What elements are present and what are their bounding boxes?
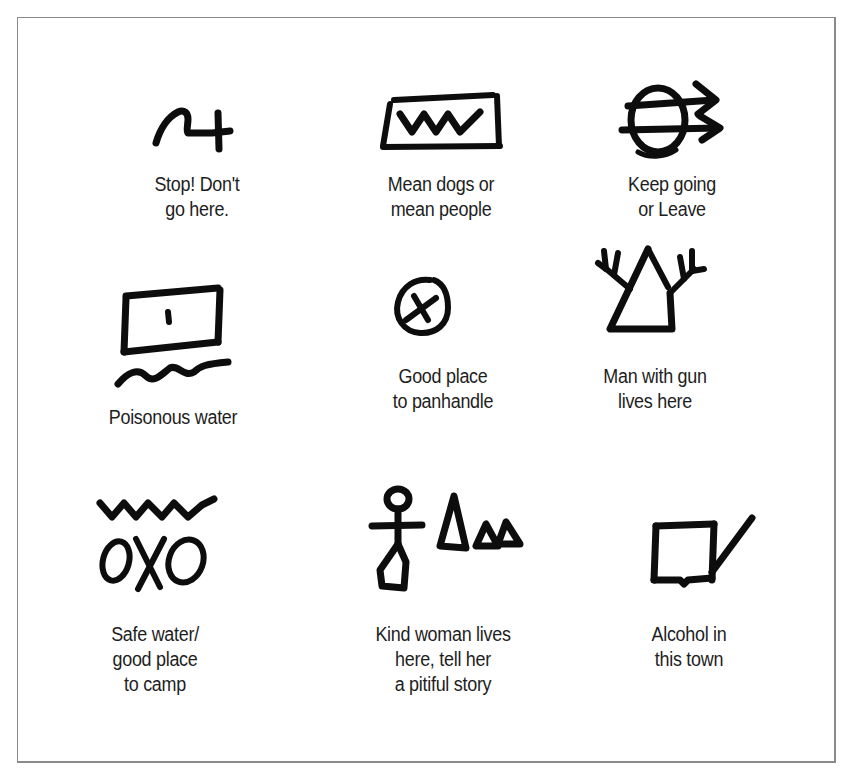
caption-line: or Leave xyxy=(628,197,716,222)
caption-line: a pitiful story xyxy=(375,672,510,697)
caption-line: Poisonous water xyxy=(109,405,237,430)
symbol-caption: Safe water/ good place to camp xyxy=(111,622,199,697)
caption-line: Man with gun xyxy=(603,364,706,389)
circle-with-double-arrows-icon xyxy=(618,78,733,160)
caption-line: mean people xyxy=(388,197,494,222)
box-with-check-stroke-icon xyxy=(650,510,765,590)
caption-line: good place xyxy=(111,647,199,672)
caption-line: go here. xyxy=(154,197,239,222)
symbol-caption: Man with gun lives here xyxy=(603,364,706,414)
zigzag-in-box-icon xyxy=(380,92,505,154)
caption-line: here, tell her xyxy=(375,647,510,672)
triangle-with-antlers-icon xyxy=(594,245,709,337)
symbol-caption: Alcohol in this town xyxy=(651,622,726,672)
zigzag-over-oxo-icon xyxy=(94,495,224,595)
symbol-caption: Keep going or Leave xyxy=(628,172,716,222)
circled-x-icon xyxy=(390,276,458,338)
caption-line: Safe water/ xyxy=(111,622,199,647)
figure-with-triangles-icon xyxy=(366,484,536,596)
caption-line: Alcohol in xyxy=(651,622,726,647)
caption-line: Keep going xyxy=(628,172,716,197)
caption-line: Stop! Don't xyxy=(154,172,239,197)
caption-line: lives here xyxy=(603,389,706,414)
symbol-caption: Mean dogs or mean people xyxy=(388,172,494,222)
symbol-caption: Kind woman lives here, tell her a pitifu… xyxy=(375,622,510,697)
caption-line: Mean dogs or xyxy=(388,172,494,197)
caption-line: this town xyxy=(651,647,726,672)
caption-line: Kind woman lives xyxy=(375,622,510,647)
squiggle-cross-icon xyxy=(150,105,240,155)
caption-line: to panhandle xyxy=(393,389,493,414)
caption-line: to camp xyxy=(111,672,199,697)
symbol-caption: Stop! Don't go here. xyxy=(154,172,239,222)
symbol-caption: Poisonous water xyxy=(109,405,237,430)
box-with-dot-and-wave-icon xyxy=(112,280,237,390)
caption-line: Good place xyxy=(393,364,493,389)
symbol-caption: Good place to panhandle xyxy=(393,364,493,414)
